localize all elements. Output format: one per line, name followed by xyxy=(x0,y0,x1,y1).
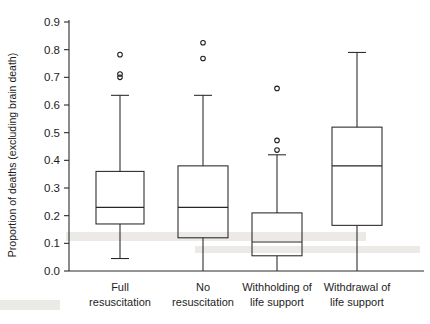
y-tick-label-7: 0.7 xyxy=(44,71,60,83)
x-category-label-2-line-0: Withholding of xyxy=(242,281,313,293)
y-tick-label-4: 0.4 xyxy=(44,154,61,166)
x-category-label-1-line-1: resuscitation xyxy=(172,296,234,308)
y-tick-label-2: 0.2 xyxy=(44,210,60,222)
x-category-label-1-line-0: No xyxy=(196,281,210,293)
y-axis-title-text: Proportion of deaths (excluding brain de… xyxy=(6,53,18,257)
y-tick-label-8: 0.8 xyxy=(44,44,60,56)
box-plot-canvas: Proportion of deaths (excluding brain de… xyxy=(0,0,430,324)
y-tick-label-3: 0.3 xyxy=(44,182,60,194)
x-category-label-3-line-1: life support xyxy=(330,296,384,308)
y-tick-label-1: 0.1 xyxy=(44,237,60,249)
box-plot-figure: Proportion of deaths (excluding brain de… xyxy=(0,0,430,324)
y-tick-label-6: 0.6 xyxy=(44,99,60,111)
x-category-label-3-line-0: Withdrawal of xyxy=(324,281,392,293)
figure-background xyxy=(0,0,430,324)
y-axis-title: Proportion of deaths (excluding brain de… xyxy=(6,53,18,257)
y-tick-label-0: 0.0 xyxy=(44,265,60,277)
x-category-label-0-line-0: Full xyxy=(111,281,129,293)
x-category-label-0-line-1: resuscitation xyxy=(89,296,151,308)
x-category-label-2-line-1: life support xyxy=(250,296,304,308)
y-tick-label-5: 0.5 xyxy=(44,127,60,139)
y-tick-label-9: 0.9 xyxy=(44,16,60,28)
